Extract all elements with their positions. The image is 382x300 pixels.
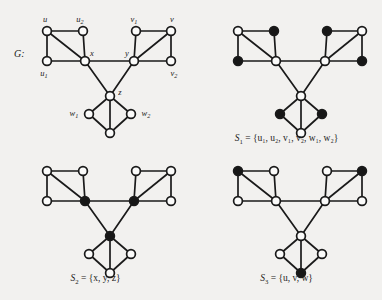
graph-drawing-S1 — [191, 0, 382, 150]
node-u[interactable] — [234, 27, 243, 36]
edge-u-x — [47, 171, 85, 201]
node-y[interactable] — [321, 197, 330, 206]
node-x[interactable] — [81, 57, 90, 66]
caption-S3: S3 = {u, v, w} — [191, 273, 382, 285]
panel-graph-S1: S1 = {u₁, u₂, v₁, v₂, w₁, w₂} — [191, 0, 382, 150]
node-w1[interactable] — [85, 250, 94, 259]
node-v2[interactable] — [167, 197, 176, 206]
edge-u-x — [47, 31, 85, 61]
label-w1: w1 — [70, 108, 79, 119]
panel-graph-S2: S2 = {x, y, z} — [0, 150, 191, 300]
node-u[interactable] — [43, 167, 52, 176]
edge-x-z — [85, 201, 110, 236]
node-v1[interactable] — [323, 27, 332, 36]
caption-S1: S1 = {u₁, u₂, v₁, v₂, w₁, w₂} — [191, 133, 382, 145]
edge-x-z — [85, 61, 110, 96]
edge-x-z — [276, 61, 301, 96]
label-u1: u1 — [40, 68, 47, 79]
node-u2[interactable] — [270, 27, 279, 36]
node-u1[interactable] — [234, 197, 243, 206]
edge-y-v — [325, 31, 362, 61]
node-v2[interactable] — [358, 57, 367, 66]
node-v[interactable] — [167, 167, 176, 176]
node-v[interactable] — [358, 167, 367, 176]
label-z: z — [117, 87, 122, 97]
node-u1[interactable] — [43, 57, 52, 66]
node-v1[interactable] — [323, 167, 332, 176]
label-u2: u2 — [76, 14, 83, 25]
caption-S2: S2 = {x, y, z} — [0, 273, 191, 285]
edge-y-z — [110, 61, 134, 96]
edges-G — [47, 31, 171, 133]
node-u2[interactable] — [79, 167, 88, 176]
edge-y-z — [301, 201, 325, 236]
node-z[interactable] — [297, 232, 306, 241]
edge-y-v — [134, 171, 171, 201]
node-u[interactable] — [43, 27, 52, 36]
node-v2[interactable] — [167, 57, 176, 66]
node-w[interactable] — [106, 129, 115, 138]
label-w2: w2 — [142, 108, 151, 119]
edges-S2 — [47, 171, 171, 273]
edge-y-v — [134, 31, 171, 61]
node-z[interactable] — [106, 232, 115, 241]
edge-x-z — [276, 201, 301, 236]
label-y: y — [124, 48, 129, 58]
node-u2[interactable] — [79, 27, 88, 36]
label-x: x — [89, 48, 94, 58]
node-u[interactable] — [234, 167, 243, 176]
panel-graph-S3: S3 = {u, v, w} — [191, 150, 382, 300]
label-v: v — [170, 14, 174, 24]
node-w1[interactable] — [276, 110, 285, 119]
node-u1[interactable] — [234, 57, 243, 66]
node-u1[interactable] — [43, 197, 52, 206]
edges-S3 — [238, 171, 362, 273]
node-u2[interactable] — [270, 167, 279, 176]
node-w2[interactable] — [127, 250, 136, 259]
node-x[interactable] — [272, 57, 281, 66]
label-v2: v2 — [171, 68, 178, 79]
node-y[interactable] — [321, 57, 330, 66]
node-w2[interactable] — [318, 250, 327, 259]
edge-u-x — [238, 31, 276, 61]
node-x[interactable] — [272, 197, 281, 206]
label-u: u — [43, 14, 47, 24]
label-v1: v1 — [131, 14, 138, 25]
node-z[interactable] — [297, 92, 306, 101]
node-v1[interactable] — [132, 167, 141, 176]
node-v[interactable] — [167, 27, 176, 36]
edges-S1 — [238, 31, 362, 133]
edge-y-z — [110, 201, 134, 236]
node-w2[interactable] — [318, 110, 327, 119]
node-x[interactable] — [81, 197, 90, 206]
node-v[interactable] — [358, 27, 367, 36]
node-y[interactable] — [130, 197, 139, 206]
node-w1[interactable] — [85, 110, 94, 119]
edge-y-z — [301, 61, 325, 96]
graph-drawing-G: u u2 u1 x v1 v y v2 z w1 w2 G: — [0, 0, 191, 150]
node-v1[interactable] — [132, 27, 141, 36]
panel-graph-G: u u2 u1 x v1 v y v2 z w1 w2 G: — [0, 0, 191, 150]
node-w2[interactable] — [127, 110, 136, 119]
node-z[interactable] — [106, 92, 115, 101]
edge-u-x — [238, 171, 276, 201]
node-y[interactable] — [130, 57, 139, 66]
label-graph-G: G: — [14, 48, 25, 59]
node-w1[interactable] — [276, 250, 285, 259]
node-v2[interactable] — [358, 197, 367, 206]
vertex-labels-G: u u2 u1 x v1 v y v2 z w1 w2 G: — [14, 14, 177, 119]
edge-y-v — [325, 171, 362, 201]
